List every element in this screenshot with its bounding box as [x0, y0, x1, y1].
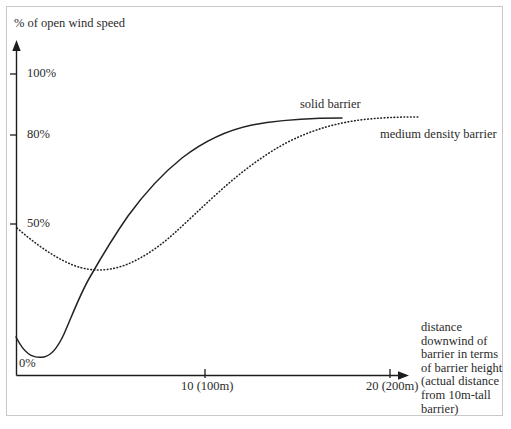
x-tick-label-20: 20 (200m) [366, 380, 418, 393]
y-axis-title: % of open wind speed [14, 17, 125, 30]
chart-figure: % of open wind speed 100% 80% 50% 0% 10 … [0, 0, 511, 429]
x-tick-label-10: 10 (100m) [181, 380, 233, 393]
series-label-medium-density-barrier: medium density barrier [380, 128, 497, 141]
y-tick-label-0: 0% [19, 357, 36, 370]
series-solid-barrier [16, 118, 342, 357]
y-tick-label-50: 50% [27, 217, 50, 230]
x-axis-caption: distance downwind of barrier in terms of… [421, 321, 505, 416]
y-axis-arrowhead [12, 40, 20, 51]
y-tick-label-100: 100% [27, 67, 56, 80]
series-medium-density-barrier [17, 117, 420, 270]
series-label-solid-barrier: solid barrier [300, 98, 361, 111]
y-tick-label-80: 80% [27, 128, 50, 141]
